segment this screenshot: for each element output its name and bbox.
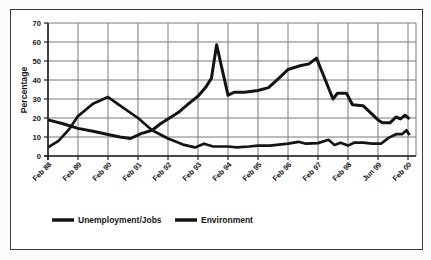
y-tick-label: 0 bbox=[37, 152, 41, 161]
x-tick-label: Feb 95 bbox=[240, 160, 263, 183]
line-chart: 010203040506070Feb 88Feb 89Feb 90Feb 91F… bbox=[0, 0, 431, 260]
y-tick-label: 60 bbox=[33, 38, 41, 47]
y-tick-label: 50 bbox=[33, 57, 41, 66]
x-tick-label: Feb 98 bbox=[330, 160, 353, 183]
x-tick-label: Feb 89 bbox=[60, 160, 83, 183]
x-tick-label: Feb 90 bbox=[90, 160, 113, 183]
x-tick-label: Feb 91 bbox=[120, 160, 143, 183]
x-tick-label: Jun 99 bbox=[360, 160, 383, 183]
y-tick-label: 20 bbox=[33, 114, 41, 123]
x-tick-label: Feb 93 bbox=[180, 160, 203, 183]
x-tick-label: Feb 97 bbox=[300, 160, 323, 183]
x-tick-label: Feb 96 bbox=[270, 160, 293, 183]
y-tick-label: 70 bbox=[33, 19, 41, 28]
x-tick-label: Feb 88 bbox=[30, 160, 53, 183]
grid bbox=[48, 23, 416, 156]
page-background: 010203040506070Feb 88Feb 89Feb 90Feb 91F… bbox=[0, 0, 431, 260]
y-tick-label: 30 bbox=[33, 95, 41, 104]
y-tick-label: 10 bbox=[33, 133, 41, 142]
axes bbox=[44, 23, 416, 160]
x-tick-label: Feb 94 bbox=[210, 159, 234, 183]
y-axis-title: Percentage bbox=[19, 67, 29, 114]
series-line-unemployment-jobs bbox=[48, 45, 410, 139]
x-tick-label: Feb 92 bbox=[150, 160, 173, 183]
legend: Unemployment/JobsEnvironment bbox=[52, 215, 253, 225]
legend-label-environment: Environment bbox=[201, 215, 253, 225]
x-tick-label: Feb 00 bbox=[390, 160, 413, 183]
y-tick-label: 40 bbox=[33, 76, 41, 85]
legend-label-unemployment-jobs: Unemployment/Jobs bbox=[78, 215, 162, 225]
